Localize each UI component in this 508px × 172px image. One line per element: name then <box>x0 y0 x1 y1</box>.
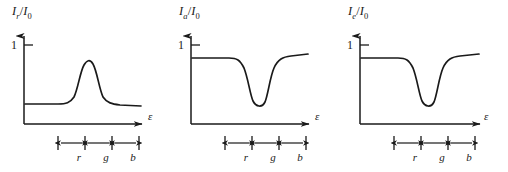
emitted-intensity-curve <box>361 54 479 106</box>
panel-absorbed: Ia/I0 1 ε r g b <box>167 0 337 172</box>
panel-reflected-plot <box>0 0 170 172</box>
panel-reflected: Ir/I0 1 ε r g b <box>0 0 170 172</box>
panel-absorbed-plot <box>167 0 337 172</box>
panel-emitted: Ie/I0 1 ε r g b <box>336 0 506 172</box>
reflected-intensity-curve <box>25 61 141 106</box>
panel-emitted-plot <box>336 0 508 172</box>
absorbed-intensity-curve <box>192 54 308 106</box>
figure-three-spectra-plots: Ir/I0 1 ε r g b <box>0 0 508 172</box>
